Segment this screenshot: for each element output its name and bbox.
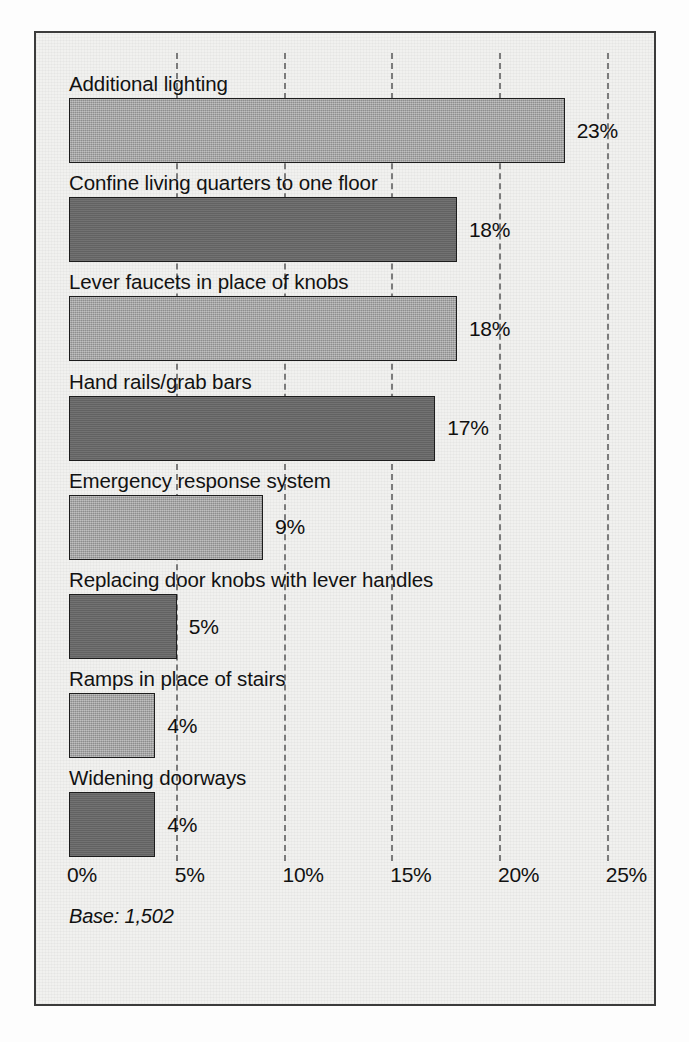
bar-row: Emergency response system9%	[36, 469, 654, 560]
bar-row: Additional lighting23%	[36, 72, 654, 163]
x-tick-label: 0%	[67, 863, 97, 887]
bar-value-label: 5%	[189, 614, 219, 638]
x-axis: 0%5%10%15%20%25%	[36, 863, 654, 893]
bar	[69, 197, 457, 262]
bar-category-label: Additional lighting	[69, 72, 228, 95]
bar-row: Widening doorways4%	[36, 766, 654, 857]
bar-container: 5%	[69, 594, 297, 659]
bar-category-label: Ramps in place of stairs	[69, 667, 285, 690]
bar-value-label: 17%	[447, 416, 488, 440]
bar-row: Confine living quarters to one floor18%	[36, 171, 654, 262]
page-root: Additional lighting23%Confine living qua…	[0, 0, 689, 1042]
bar	[69, 296, 457, 361]
bar-row: Lever faucets in place of knobs18%	[36, 270, 654, 361]
x-tick-label: 20%	[498, 863, 539, 887]
x-tick-label: 10%	[283, 863, 324, 887]
bar-category-label: Hand rails/grab bars	[69, 370, 252, 393]
bar-category-label: Emergency response system	[69, 469, 331, 492]
bar-row: Hand rails/grab bars17%	[36, 370, 654, 461]
bar-row: Replacing door knobs with lever handles5…	[36, 568, 654, 659]
bar	[69, 495, 263, 560]
bar-category-label: Widening doorways	[69, 766, 246, 789]
bar-container: 4%	[69, 792, 275, 857]
bar	[69, 693, 155, 758]
bar-row: Ramps in place of stairs4%	[36, 667, 654, 758]
chart-frame: Additional lighting23%Confine living qua…	[34, 31, 656, 1006]
x-tick-label: 15%	[390, 863, 431, 887]
bar-category-label: Replacing door knobs with lever handles	[69, 568, 433, 591]
base-note: Base: 1,502	[69, 905, 174, 928]
bar-value-label: 18%	[469, 316, 510, 340]
bar-container: 23%	[69, 98, 656, 163]
bar-container: 9%	[69, 495, 383, 560]
bar-chart-plot: Additional lighting23%Confine living qua…	[36, 33, 654, 1004]
bar	[69, 594, 177, 659]
x-tick-label: 25%	[606, 863, 647, 887]
bar-container: 17%	[69, 396, 555, 461]
bar-container: 18%	[69, 197, 577, 262]
bar	[69, 98, 565, 163]
bar-value-label: 4%	[167, 812, 197, 836]
bar-value-label: 23%	[577, 118, 618, 142]
bar-value-label: 18%	[469, 217, 510, 241]
bar-value-label: 4%	[167, 713, 197, 737]
bar-category-label: Confine living quarters to one floor	[69, 171, 378, 194]
bar	[69, 396, 435, 461]
x-tick-label: 5%	[175, 863, 205, 887]
bar-value-label: 9%	[275, 515, 305, 539]
bar-container: 4%	[69, 693, 275, 758]
bar-category-label: Lever faucets in place of knobs	[69, 270, 349, 293]
bar-container: 18%	[69, 296, 577, 361]
bar	[69, 792, 155, 857]
